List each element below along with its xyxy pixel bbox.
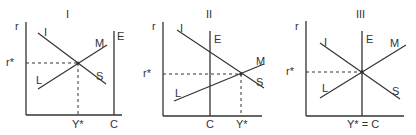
- panel-title: I: [66, 8, 69, 20]
- x-label-c: C: [110, 118, 118, 130]
- is-label-top: I: [44, 26, 47, 38]
- y-axis-label: r: [295, 20, 299, 32]
- lm-curve: [38, 45, 107, 89]
- panel-3: III r r* I S M L E Y* = C: [286, 8, 406, 130]
- e-label: E: [366, 33, 373, 45]
- lm-label-bottom: L: [36, 74, 42, 86]
- equilibrium-point: [76, 61, 79, 64]
- x-label-c: C: [206, 118, 214, 130]
- is-label-top: I: [324, 36, 327, 48]
- is-label-bottom: S: [96, 70, 103, 82]
- lm-label-top: M: [390, 37, 399, 49]
- is-label-bottom: S: [256, 76, 263, 88]
- lm-label-top: M: [95, 37, 104, 49]
- r-star-label: r*: [6, 56, 15, 68]
- panel-2: II r r* I S M L E C Y*: [143, 8, 265, 130]
- is-label-bottom: S: [392, 85, 399, 97]
- equilibrium-point: [360, 70, 364, 74]
- e-label: E: [117, 30, 124, 42]
- panel-1: I r r* I S M L E Y* C: [6, 8, 124, 130]
- lm-label-top: M: [256, 55, 265, 67]
- r-star-label: r*: [286, 65, 295, 77]
- x-label-y-star: Y*: [236, 118, 248, 130]
- lm-label-bottom: L: [175, 87, 181, 99]
- y-axis-label: r: [152, 20, 156, 32]
- e-label: E: [214, 33, 221, 45]
- x-label-y-star-equals-c: Y* = C: [347, 118, 379, 130]
- r-star-label: r*: [143, 67, 152, 79]
- is-label-top: I: [180, 22, 183, 34]
- x-label-y-star: Y*: [72, 118, 84, 130]
- y-axis-label: r: [15, 20, 19, 32]
- panel-title: III: [356, 8, 365, 20]
- equilibrium-point: [239, 72, 242, 75]
- lm-label-bottom: L: [322, 82, 328, 94]
- islm-diagram: I r r* I S M L E Y* C II r r* I S M L E: [0, 0, 416, 135]
- lm-curve: [174, 64, 264, 101]
- panel-title: II: [206, 8, 212, 20]
